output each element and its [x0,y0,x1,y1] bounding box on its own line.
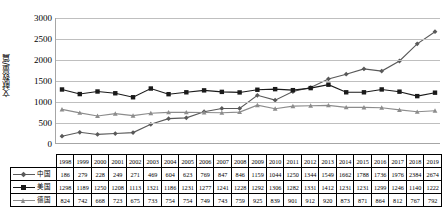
marker-1-13 [291,88,295,92]
cell-中国-1998: 186 [56,168,74,181]
cell-德国-2006: 749 [196,194,214,207]
table-row: 中国18627922824927146960462376984784611591… [11,168,442,181]
gridline-1500 [56,81,440,82]
marker-1-19 [397,89,401,93]
marker-1-16 [344,90,348,94]
cell-美国-2007: 1241 [214,181,232,194]
marker-1-7 [184,90,188,94]
marker-1-12 [273,87,277,91]
cell-德国-2014: 873 [336,194,354,207]
column-header-2015: 2015 [354,155,372,168]
cell-中国-2005: 623 [179,168,197,181]
legend-marker-icon [13,171,35,178]
y-tick-1000: 1000 [34,98,52,107]
cell-德国-2018: 767 [406,194,424,207]
cell-中国-2000: 228 [91,168,109,181]
cell-中国-1999: 279 [74,168,92,181]
gridline-3000 [56,18,440,19]
cell-美国-2001: 1208 [109,181,127,194]
cell-美国-2003: 1321 [144,181,162,194]
cell-德国-2016: 864 [371,194,389,207]
line-chart: 文献数量/篇 050010001500200025003000 [0,0,442,152]
cell-美国-2017: 1246 [389,181,407,194]
cell-中国-2013: 1549 [319,168,337,181]
legend-marker-icon [13,184,35,191]
gridline-2500 [56,39,440,40]
cell-中国-2019: 2674 [424,168,442,181]
cell-美国-2015: 1231 [354,181,372,194]
marker-0-16 [344,72,349,77]
series-line-0 [62,32,435,136]
marker-0-1 [77,130,82,135]
cell-中国-2012: 1344 [301,168,319,181]
column-header-2002: 2002 [126,155,144,168]
marker-1-21 [433,90,437,94]
marker-0-9 [219,106,224,111]
marker-1-17 [362,90,366,94]
column-header-2003: 2003 [144,155,162,168]
gridline-500 [56,123,440,124]
marker-0-7 [184,115,189,120]
cell-德国-2015: 871 [354,194,372,207]
y-tick-2500: 2500 [34,35,52,44]
cell-中国-2015: 1788 [354,168,372,181]
legend-item-中国[interactable]: 中国 [11,168,57,181]
cell-美国-2006: 1277 [196,181,214,194]
marker-0-0 [60,134,65,139]
y-tick-3000: 3000 [34,14,52,23]
cell-德国-1998: 824 [56,194,74,207]
marker-1-2 [95,89,99,93]
cell-德国-2008: 759 [231,194,249,207]
plot-area [55,18,440,144]
cell-中国-2007: 847 [214,168,232,181]
gridline-2000 [56,60,440,61]
column-header-2014: 2014 [336,155,354,168]
column-header-2011: 2011 [284,155,302,168]
column-header-2005: 2005 [179,155,197,168]
marker-0-4 [131,130,136,135]
column-header-2019: 2019 [424,155,442,168]
legend-label: 德国 [37,197,51,204]
column-header-2007: 2007 [214,155,232,168]
column-header-2009: 2009 [249,155,267,168]
cell-美国-2008: 1228 [231,181,249,194]
cell-德国-2012: 912 [301,194,319,207]
column-header-2008: 2008 [231,155,249,168]
cell-德国-2002: 675 [126,194,144,207]
column-header-2012: 2012 [301,155,319,168]
table-header-row: 1998199920002001200220032004200520062007… [11,155,442,168]
marker-1-15 [326,82,330,86]
cell-美国-2005: 1231 [179,181,197,194]
marker-1-11 [255,88,259,92]
column-header-2016: 2016 [371,155,389,168]
cell-德国-1999: 742 [74,194,92,207]
cell-德国-2009: 925 [249,194,267,207]
cell-德国-2000: 668 [91,194,109,207]
column-header-2004: 2004 [161,155,179,168]
marker-1-8 [202,88,206,92]
marker-0-18 [379,69,384,74]
y-tick-2000: 2000 [34,56,52,65]
legend-item-美国[interactable]: 美国 [11,181,57,194]
cell-中国-2008: 846 [231,168,249,181]
cell-德国-2007: 743 [214,194,232,207]
cell-中国-2018: 2384 [406,168,424,181]
cell-中国-2011: 1250 [284,168,302,181]
column-header-1999: 1999 [74,155,92,168]
cell-德国-2001: 723 [109,194,127,207]
column-header-2013: 2013 [319,155,337,168]
column-header-1998: 1998 [56,155,74,168]
legend-item-德国[interactable]: 德国 [11,194,57,207]
cell-中国-2017: 1976 [389,168,407,181]
cell-美国-2014: 1231 [336,181,354,194]
data-table: 1998199920002001200220032004200520062007… [10,154,442,207]
cell-美国-2000: 1250 [91,181,109,194]
cell-德国-2010: 839 [266,194,284,207]
legend-label: 中国 [37,171,51,178]
marker-1-1 [78,92,82,96]
cell-美国-2004: 1186 [161,181,179,194]
cell-中国-2014: 1662 [336,168,354,181]
cell-美国-2002: 1113 [126,181,144,194]
legend-marker-icon [13,197,35,204]
cell-中国-2016: 1736 [371,168,389,181]
